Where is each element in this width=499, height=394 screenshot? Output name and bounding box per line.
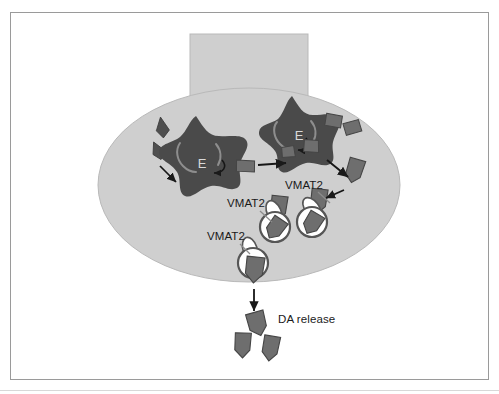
enzyme-left-label: E bbox=[198, 156, 207, 171]
dopamine-released-icon-2 bbox=[235, 333, 252, 359]
label-da-release: DA release bbox=[278, 313, 335, 325]
dopamine-released-icon-3 bbox=[261, 335, 281, 362]
label-vmat2-left: VMAT2 bbox=[207, 230, 245, 242]
enzyme-right-label: E bbox=[295, 128, 304, 143]
figure-root: E E bbox=[0, 0, 499, 394]
dopamine-synthesized-icon bbox=[235, 159, 255, 173]
label-vmat2-right: VMAT2 bbox=[285, 179, 323, 191]
released-dopamine-group bbox=[235, 310, 281, 362]
dopamine-in-enzyme-icon bbox=[304, 140, 320, 153]
dopamine-in-enzyme-icon-2 bbox=[282, 146, 296, 158]
neuron-dopamine-diagram: E E bbox=[0, 0, 499, 394]
label-vmat2-middle: VMAT2 bbox=[227, 197, 265, 209]
